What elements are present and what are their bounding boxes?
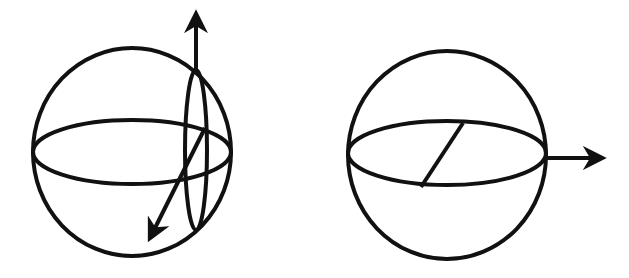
radius-line — [421, 123, 463, 187]
right-equator-ellipse — [348, 121, 546, 185]
left-sphere-figure — [33, 14, 231, 256]
left-equator-ellipse — [33, 120, 231, 184]
right-sphere-outline — [348, 51, 546, 259]
right-sphere-figure — [348, 51, 602, 259]
diagram-canvas — [0, 0, 629, 278]
